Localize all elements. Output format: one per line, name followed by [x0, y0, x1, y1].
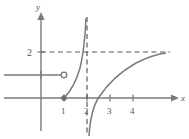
x-tick-label-2: 2 — [84, 106, 89, 116]
x-tick-label-1: 1 — [61, 106, 66, 116]
x-tick-labels: 1 2 3 4 — [61, 106, 135, 116]
y-axis-label: y — [35, 2, 40, 12]
x-tick-label-3: 3 — [107, 106, 112, 116]
x-tick-label-4: 4 — [130, 106, 135, 116]
y-tick-label-2: 2 — [27, 47, 32, 58]
open-circle-point — [61, 72, 67, 78]
x-axis: x — [4, 93, 185, 103]
x-axis-arrow — [171, 94, 179, 101]
x-axis-label: x — [180, 93, 185, 103]
graph-figure: x y 1 2 3 4 2 — [0, 0, 189, 139]
closed-dot-point — [62, 96, 67, 101]
y-axis-arrow — [37, 12, 44, 20]
y-axis: y — [35, 2, 45, 131]
middle-branch-curve — [64, 18, 86, 98]
function-graph-svg: x y 1 2 3 4 2 — [0, 0, 189, 139]
right-branch-curve — [89, 53, 166, 136]
